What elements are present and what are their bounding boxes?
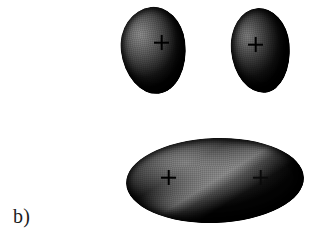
lower-ellipsoid [125,135,306,226]
upper-left-ovoid-surface [116,3,191,97]
lower-ellipsoid-surface [125,135,306,226]
upper-left-ovoid [116,3,191,97]
upper-right-ovoid [227,6,293,96]
panel-label: b) [13,206,30,226]
figure-panel: b) [0,0,329,246]
upper-right-ovoid-surface [227,6,293,96]
